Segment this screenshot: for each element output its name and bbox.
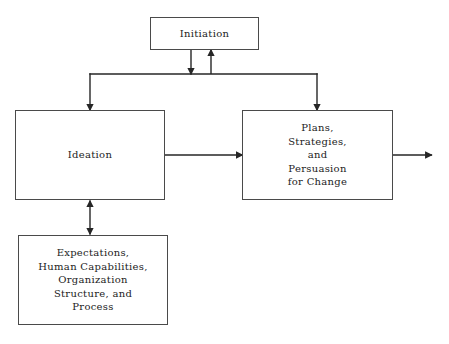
node-expectations-capabilities-structure: Expectations, Human Capabilities, Organi…	[18, 235, 168, 325]
node-initiation-label: Initiation	[176, 27, 233, 41]
node-initiation: Initiation	[150, 17, 259, 50]
node-ideation-label: Ideation	[64, 148, 116, 162]
node-expectations-label: Expectations, Human Capabilities, Organi…	[34, 246, 151, 314]
node-plans-label: Plans, Strategies, and Persuasion for Ch…	[284, 121, 352, 189]
change-process-diagram: Initiation Ideation Plans, Strategies, a…	[0, 0, 449, 344]
node-plans-strategies-persuasion: Plans, Strategies, and Persuasion for Ch…	[242, 110, 393, 200]
node-ideation: Ideation	[15, 110, 165, 200]
